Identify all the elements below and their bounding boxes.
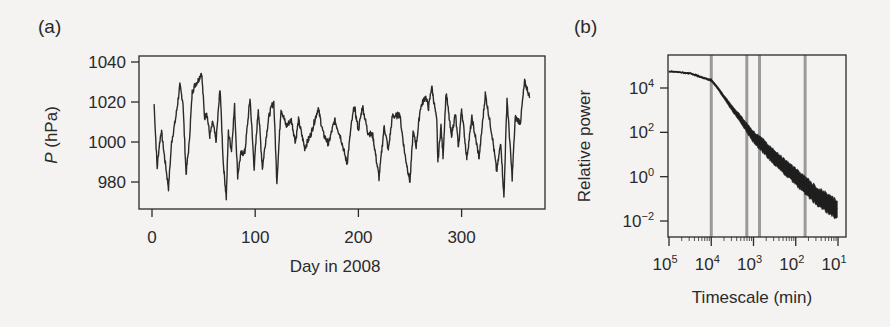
x-tick-label: 102 xyxy=(779,253,804,274)
x-axis-a: 0100200300 xyxy=(147,209,476,247)
figure-canvas: (a) 980100010201040 0100200300 Day in 20… xyxy=(0,0,890,327)
y-tick-label: 100 xyxy=(629,166,654,187)
x-tick-label: 104 xyxy=(695,253,720,274)
y-tick-label: 10−2 xyxy=(623,210,654,231)
panel-label-a: (a) xyxy=(38,16,61,37)
y-axis-a: 980100010201040 xyxy=(88,53,139,192)
y-tick-label: 1020 xyxy=(88,93,126,112)
y-axis-title-var: P xyxy=(42,152,61,164)
x-axis-b: 105104103102101 xyxy=(652,237,846,274)
x-tick-label: 200 xyxy=(344,228,372,247)
x-tick-label: 105 xyxy=(652,253,677,274)
x-tick-label: 100 xyxy=(241,228,269,247)
x-tick-label: 300 xyxy=(447,228,475,247)
y-tick-label: 1000 xyxy=(88,133,126,152)
panel-a-pressure-timeseries: (a) 980100010201040 0100200300 Day in 20… xyxy=(38,16,545,276)
y-tick-label: 102 xyxy=(629,121,654,142)
y-axis-title-unit: (hPa) xyxy=(42,106,61,152)
pressure-line xyxy=(154,73,530,199)
y-tick-label: 980 xyxy=(98,173,126,192)
y-axis-b: 10−2100102104 xyxy=(623,77,668,231)
x-axis-title-b: Timescale (min) xyxy=(692,288,812,307)
x-tick-label: 0 xyxy=(147,228,156,247)
figure: (a) 980100010201040 0100200300 Day in 20… xyxy=(0,0,890,327)
y-tick-label: 1040 xyxy=(88,53,126,72)
spectrum-band xyxy=(669,71,837,219)
y-tick-label: 104 xyxy=(629,77,654,98)
panel-label-b: (b) xyxy=(574,16,597,37)
y-axis-title-b: Relative power xyxy=(575,89,594,202)
x-axis-title-a: Day in 2008 xyxy=(290,257,381,276)
x-tick-label: 103 xyxy=(737,253,762,274)
x-tick-label: 101 xyxy=(821,253,846,274)
panel-b-power-spectrum: (b) 10−2100102104 105104103102101 Timesc… xyxy=(574,16,847,307)
y-axis-title-a: P (hPa) xyxy=(42,106,61,164)
